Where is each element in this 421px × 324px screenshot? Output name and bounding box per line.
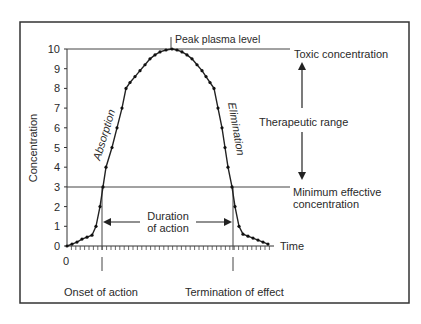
plasma-concentration-chart: 012345678910 Concentration Peak plasma l… <box>0 0 421 324</box>
y-axis-ticks: 012345678910 <box>48 43 67 252</box>
y-tick-label: 10 <box>48 43 60 55</box>
onset-label: Onset of action <box>64 286 138 298</box>
elimination-label: Elimination <box>226 101 247 156</box>
y-tick-label: 1 <box>54 220 60 232</box>
min-effective-label-2: concentration <box>293 198 359 210</box>
x-axis-ticks <box>71 246 269 250</box>
termination-label: Termination of effect <box>185 286 284 298</box>
y-tick-label: 6 <box>54 122 60 134</box>
min-effective-label-1: Minimum effective <box>293 186 381 198</box>
x-zero-label: 0 <box>63 255 69 267</box>
y-tick-label: 3 <box>54 181 60 193</box>
time-label: Time <box>280 240 304 252</box>
absorption-label: Absorption <box>90 108 117 163</box>
y-axis-label: Concentration <box>27 114 39 183</box>
y-tick-label: 5 <box>54 142 60 154</box>
duration-label-1: Duration <box>147 210 189 222</box>
toxic-label: Toxic concentration <box>294 48 388 60</box>
chart-frame <box>20 22 409 303</box>
y-tick-label: 4 <box>54 161 60 173</box>
peak-label: Peak plasma level <box>175 33 260 45</box>
y-tick-label: 9 <box>54 63 60 75</box>
y-tick-label: 2 <box>54 201 60 213</box>
therapeutic-label: Therapeutic range <box>259 116 348 128</box>
y-tick-label: 7 <box>54 102 60 114</box>
y-tick-label: 8 <box>54 82 60 94</box>
duration-label-2: of action <box>147 222 189 234</box>
y-tick-label: 0 <box>54 240 60 252</box>
